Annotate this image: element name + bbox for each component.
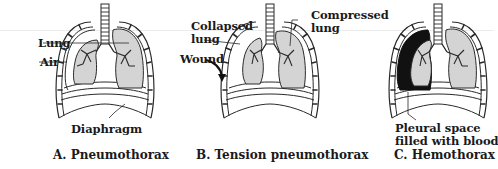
label-pleural-space-line2: filled with blood bbox=[395, 135, 498, 147]
label-pleural-space-line1: Pleural space bbox=[395, 122, 481, 134]
hemothorax-drawing bbox=[389, 4, 487, 120]
caption-b: B. Tension pneumothorax bbox=[196, 149, 368, 162]
label-lung: Lung bbox=[38, 37, 70, 49]
label-collapsed-lung-line2: lung bbox=[191, 33, 220, 45]
label-diaphragm: Diaphragm bbox=[71, 123, 142, 135]
label-compressed-lung-line2: lung bbox=[311, 22, 340, 34]
label-collapsed-lung-line1: Collapsed bbox=[191, 20, 253, 32]
caption-c: C. Hemothorax bbox=[394, 149, 495, 162]
label-air: Air bbox=[40, 56, 59, 68]
label-compressed-lung-line1: Compressed bbox=[311, 9, 389, 21]
caption-a: A. Pneumothorax bbox=[53, 149, 169, 162]
label-wound: Wound bbox=[180, 53, 224, 65]
